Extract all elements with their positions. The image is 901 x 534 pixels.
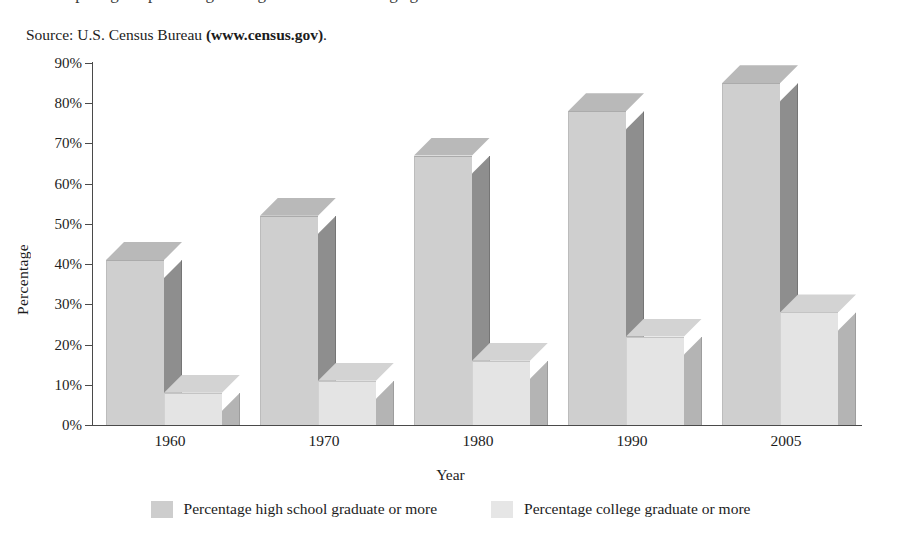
bar-top-face [106, 242, 182, 260]
bar-front-face [472, 361, 530, 425]
y-tick-20 [85, 345, 93, 346]
y-tick-90 [85, 63, 93, 64]
plot-area: 0%10%20%30%40%50%60%70%80%90% [92, 62, 862, 426]
bar-side-face [838, 312, 856, 425]
legend-label-high-school: Percentage high school graduate or more [184, 500, 438, 518]
bar-side-face [222, 393, 240, 425]
bar-1960-college [164, 375, 222, 425]
y-tick-label-70: 70% [55, 135, 83, 152]
y-tick-30 [85, 304, 93, 305]
x-axis-label-1960: 1960 [155, 432, 186, 450]
y-axis-line [92, 62, 93, 426]
bar-front-face [318, 381, 376, 425]
bar-1970-high-school [260, 198, 318, 425]
bar-1990-college [626, 319, 684, 425]
x-axis-title: Year [0, 466, 901, 484]
y-tick-label-10: 10% [55, 376, 83, 393]
bar-side-face [530, 361, 548, 425]
y-tick-label-90: 90% [55, 55, 83, 72]
legend-item-college: Percentage college graduate or more [491, 500, 750, 518]
chart-legend: Percentage high school graduate or more … [0, 500, 901, 518]
legend-swatch-high-school [151, 501, 173, 518]
y-tick-50 [85, 224, 93, 225]
x-axis-label-1990: 1990 [617, 432, 648, 450]
y-tick-label-20: 20% [55, 336, 83, 353]
bar-front-face [568, 111, 626, 425]
bar-top-face [260, 198, 336, 216]
y-tick-label-80: 80% [55, 95, 83, 112]
bar-1980-college [472, 343, 530, 425]
y-tick-label-0: 0% [62, 417, 82, 434]
bar-1980-high-school [414, 138, 472, 425]
bar-top-face [780, 294, 856, 312]
y-tick-60 [85, 184, 93, 185]
bar-side-face [684, 337, 702, 425]
bar-top-face [722, 65, 798, 83]
y-tick-40 [85, 264, 93, 265]
bar-1960-high-school [106, 242, 164, 425]
x-axis-line [92, 425, 862, 426]
bar-top-face [568, 93, 644, 111]
legend-label-college: Percentage college graduate or more [524, 500, 750, 518]
bar-top-face [414, 138, 490, 156]
bar-side-face [376, 381, 394, 425]
bar-front-face [106, 260, 164, 425]
legend-item-high-school: Percentage high school graduate or more [151, 500, 438, 518]
y-tick-label-60: 60% [55, 175, 83, 192]
bar-top-face [164, 375, 240, 393]
x-axis-label-1970: 1970 [309, 432, 340, 450]
y-tick-70 [85, 143, 93, 144]
bar-front-face [780, 312, 838, 425]
bar-top-face [472, 343, 548, 361]
bar-front-face [626, 337, 684, 425]
bar-1970-college [318, 363, 376, 425]
y-tick-10 [85, 385, 93, 386]
clipped-headline: comparing the percentage of high school … [0, 0, 901, 14]
y-axis-title: Percentage [14, 244, 32, 315]
y-tick-80 [85, 103, 93, 104]
source-suffix: . [323, 26, 327, 43]
y-tick-label-50: 50% [55, 215, 83, 232]
bar-front-face [260, 216, 318, 425]
bar-front-face [722, 83, 780, 425]
bar-top-face [626, 319, 702, 337]
bar-front-face [164, 393, 222, 425]
y-tick-0 [85, 425, 93, 426]
legend-swatch-college [491, 501, 513, 518]
source-line: Source: U.S. Census Bureau (www.census.g… [26, 26, 327, 44]
source-prefix: Source: U.S. Census Bureau [26, 26, 206, 43]
bar-1990-high-school [568, 93, 626, 425]
clipped-headline-text: comparing the percentage of high school … [46, 0, 475, 4]
y-tick-label-40: 40% [55, 256, 83, 273]
x-axis-label-1980: 1980 [463, 432, 494, 450]
bar-2005-high-school [722, 65, 780, 425]
bar-2005-college [780, 294, 838, 425]
source-website: (www.census.gov) [206, 26, 323, 43]
bar-front-face [414, 156, 472, 425]
x-axis-label-2005: 2005 [771, 432, 802, 450]
bar-top-face [318, 363, 394, 381]
y-tick-label-30: 30% [55, 296, 83, 313]
